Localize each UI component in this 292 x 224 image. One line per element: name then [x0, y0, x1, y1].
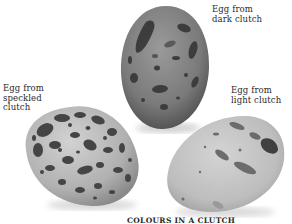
egg-photograph: Egg from dark clutch Egg from speckled c… [0, 0, 292, 224]
speckled-clutch-egg [26, 106, 139, 210]
figure-title: COLOURS IN A CLUTCH [127, 216, 235, 224]
caption-speckled-clutch: Egg from speckled clutch [3, 84, 44, 113]
caption-dark-clutch: Egg from dark clutch [212, 5, 262, 24]
dark-clutch-egg [121, 6, 209, 133]
caption-light-clutch: Egg from light clutch [231, 86, 281, 105]
